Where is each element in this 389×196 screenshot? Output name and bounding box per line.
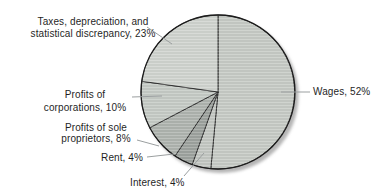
label-taxes-line1: Taxes, depreciation, and <box>27 16 159 28</box>
label-profits-of-corporations: Profits of corporations, 10% <box>36 88 134 114</box>
label-sole-line2: proprietors, 8% <box>50 133 142 144</box>
label-taxes: Taxes, depreciation, and statistical dis… <box>27 16 159 40</box>
label-corporations-line2: corporations, 10% <box>36 101 134 114</box>
label-interest: Interest, 4% <box>130 177 185 189</box>
label-profits-of-sole-proprietors: Profits of sole proprietors, 8% <box>50 122 142 144</box>
label-rent: Rent, 4% <box>96 152 143 164</box>
label-wages: Wages, 52% <box>313 86 370 98</box>
leader-line-rent <box>147 154 174 157</box>
label-corporations-line1: Profits of <box>36 88 134 101</box>
pie-chart-figure: Taxes, depreciation, and statistical dis… <box>0 0 389 196</box>
label-sole-line1: Profits of sole <box>50 122 142 133</box>
label-taxes-line2: statistical discrepancy, 23% <box>27 28 159 40</box>
